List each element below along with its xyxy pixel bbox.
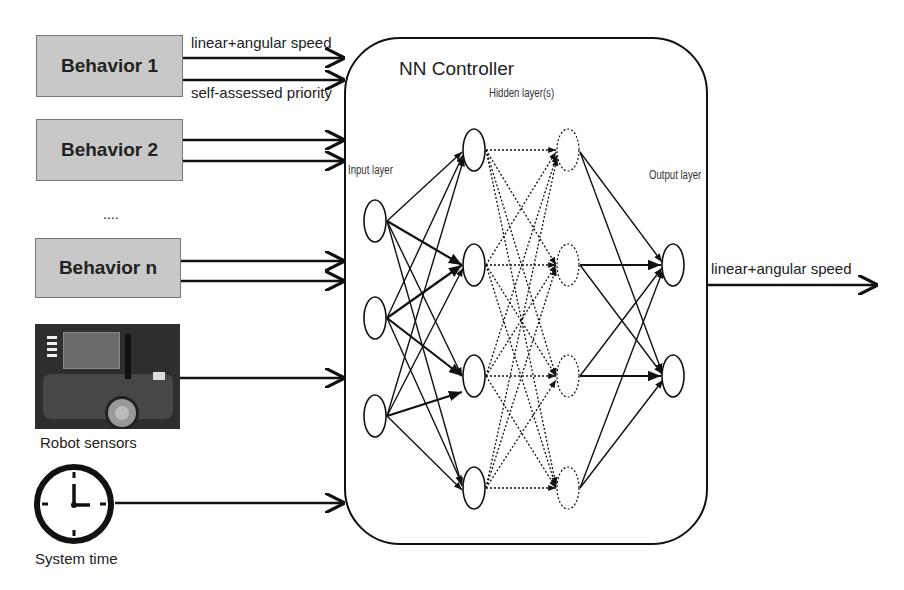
system-time-label: System time	[35, 550, 118, 567]
output-node	[662, 355, 684, 397]
controller-title: NN Controller	[399, 58, 514, 80]
output-layer-nodes	[662, 244, 684, 397]
behavior-2-box: Behavior 2	[36, 119, 183, 181]
robot-sensors-image	[35, 324, 180, 429]
output-node	[662, 244, 684, 286]
input-node	[364, 395, 386, 437]
input-label-priority: self-assessed priority	[191, 84, 332, 101]
behavior-1-box: Behavior 1	[36, 35, 183, 97]
hidden-node	[463, 355, 485, 397]
edges-input-hidden	[387, 152, 464, 490]
hidden-layer-2-nodes	[557, 129, 579, 509]
behavior-label: Behavior 1	[61, 55, 158, 77]
behavior-n-box: Behavior n	[35, 238, 181, 298]
behavior-label: Behavior n	[59, 257, 157, 279]
output-layer-label: Output layer	[649, 168, 701, 182]
hidden-node	[463, 467, 485, 509]
hidden-node	[557, 244, 579, 286]
hidden-layer-1-nodes	[463, 129, 485, 509]
hidden-node	[463, 129, 485, 171]
ellipsis: ....	[103, 206, 119, 222]
input-layer-label: Input layer	[348, 163, 393, 177]
hidden-node	[463, 244, 485, 286]
hidden-node	[557, 355, 579, 397]
clock-icon	[37, 467, 111, 541]
input-label-speed: linear+angular speed	[191, 34, 332, 51]
edges-hidden-output	[580, 152, 663, 488]
input-layer-nodes	[364, 200, 386, 437]
edges-hidden-hidden	[486, 150, 557, 488]
robot-sensors-label: Robot sensors	[40, 434, 137, 451]
behavior-label: Behavior 2	[61, 139, 158, 161]
hidden-node	[557, 129, 579, 171]
input-node	[364, 200, 386, 242]
hidden-layer-label: Hidden layer(s)	[489, 86, 554, 100]
output-label: linear+angular speed	[711, 260, 852, 277]
input-node	[364, 297, 386, 339]
hidden-node	[557, 467, 579, 509]
